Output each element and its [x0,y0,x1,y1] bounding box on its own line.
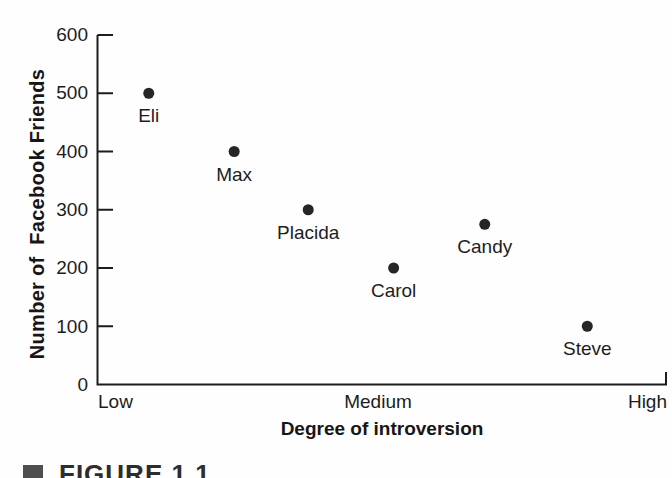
point-candy [479,219,490,230]
y-tick-label-500: 500 [28,82,88,104]
figure-caption: FIGURE 1.1 [59,459,211,478]
point-max [229,146,240,157]
y-tick-label-0: 0 [28,374,88,396]
figure-caption-row: FIGURE 1.1 [0,459,672,478]
x-tick-label-medium: Medium [330,391,426,413]
point-label-max: Max [216,164,252,185]
point-label-steve: Steve [563,338,612,359]
point-carol [388,263,399,274]
y-tick-label-400: 400 [28,141,88,163]
point-label-candy: Candy [457,236,512,257]
y-tick-label-200: 200 [28,257,88,279]
point-placida [303,204,314,215]
scatterplot-figure: EliMaxPlacidaCarolCandySteve Number of F… [0,0,672,478]
y-tick-label-600: 600 [28,24,88,46]
x-tick-label-low: Low [98,391,133,413]
axis-frame [98,35,667,385]
figure-bullet-square-icon [23,465,43,478]
y-tick-label-100: 100 [28,316,88,338]
point-eli [143,88,154,99]
y-tick-label-300: 300 [28,199,88,221]
x-tick-label-high: High [628,391,667,413]
point-label-placida: Placida [277,222,340,243]
point-label-eli: Eli [138,105,159,126]
x-axis-title: Degree of introversion [192,418,572,440]
point-label-carol: Carol [371,280,416,301]
point-steve [582,321,593,332]
